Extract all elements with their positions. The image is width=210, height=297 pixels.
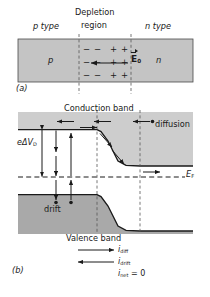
negative-charge-sign: − [94, 58, 101, 67]
label-electric-field: E0 [131, 55, 141, 65]
label-drift: drift [44, 205, 61, 213]
label-p-type: p type [33, 22, 59, 30]
label-p-region: p [48, 56, 53, 64]
panel-a-slab [18, 34, 193, 94]
label-diffusion: diffusion [155, 120, 190, 128]
positive-charge-sign: + [110, 71, 117, 80]
label-n-type: n type [145, 22, 171, 30]
positive-charge-sign: + [110, 45, 117, 54]
caption-a: (a) [16, 84, 27, 92]
negative-charge-sign: − [83, 58, 90, 67]
label-depletion-line1: Depletion [75, 8, 115, 16]
positive-charge-sign: + [121, 58, 128, 67]
negative-charge-sign: − [83, 45, 90, 54]
current-legend-arrows [78, 250, 114, 262]
field-vector-symbol: E [131, 55, 137, 64]
pn-junction-figure [0, 0, 210, 297]
positive-charge-sign: + [121, 45, 128, 54]
negative-charge-sign: − [94, 71, 101, 80]
vertical-transition-arrows [56, 131, 71, 201]
positive-charge-sign: + [110, 58, 117, 67]
label-n-region: n [156, 56, 161, 64]
label-conduction-band: Conduction band [64, 104, 134, 112]
label-valence-band: Valence band [66, 234, 121, 242]
label-depletion-line2: region [81, 21, 107, 29]
valence-band-fill [18, 195, 193, 234]
positive-charge-sign: + [121, 71, 128, 80]
label-i-drift: idrift [118, 258, 130, 266]
panel-b-bands [18, 112, 193, 234]
label-i-diff: idiff [118, 246, 128, 254]
diffusion-electron-dot [151, 120, 155, 124]
caption-b: (b) [12, 266, 24, 274]
negative-charge-sign: − [83, 71, 90, 80]
label-i-net: inet = 0 [118, 270, 145, 278]
label-barrier-energy: eΔVD [17, 139, 37, 147]
label-fermi-level: EF [186, 170, 194, 179]
drift-carrier-dot [69, 201, 73, 205]
negative-charge-sign: − [94, 45, 101, 54]
